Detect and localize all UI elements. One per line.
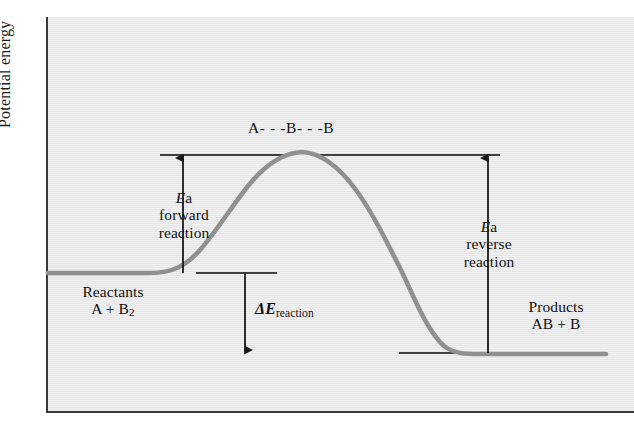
ea-reverse-label: Ea reverse reaction (427, 218, 551, 270)
energy-diagram-figure: Potential energy A- - -B- - -B Ea forwar (0, 0, 634, 428)
reactants-species-text: A + B (91, 300, 129, 317)
products-label: Products AB + B (495, 298, 617, 333)
reactants-title: Reactants (50, 283, 176, 300)
reactants-species: A + B2 (50, 300, 176, 319)
ea-forward-symbol-a: a (185, 189, 192, 206)
ea-reverse-symbol-E: E (481, 218, 491, 235)
ea-forward-label: Ea forward reaction (122, 189, 246, 241)
delta-e-subscript: reaction (276, 307, 314, 319)
ea-reverse-line1: reverse (427, 235, 551, 252)
delta-e-symbol: ΔE (255, 300, 276, 317)
ea-reverse-symbol: Ea (427, 218, 551, 235)
ea-reverse-symbol-a: a (490, 218, 497, 235)
products-title: Products (495, 298, 617, 315)
ea-forward-symbol-E: E (176, 189, 186, 206)
ea-forward-line2: reaction (122, 224, 246, 241)
ea-reverse-line2: reaction (427, 253, 551, 270)
delta-e-reaction-label: ΔEreaction (255, 300, 314, 319)
products-species: AB + B (495, 315, 617, 332)
reactants-label: Reactants A + B2 (50, 283, 176, 319)
reactants-species-subscript: 2 (129, 307, 135, 319)
transition-state-label: A- - -B- - -B (248, 119, 334, 136)
ea-forward-symbol: Ea (122, 189, 246, 206)
ea-forward-line1: forward (122, 206, 246, 223)
diagram-graphics (0, 0, 634, 428)
